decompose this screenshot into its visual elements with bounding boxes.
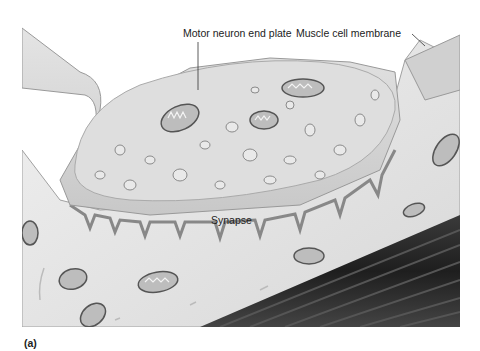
- neuromuscular-junction-illustration: [0, 0, 480, 351]
- motor-neuron-end-plate-label: Motor neuron end plate: [183, 27, 292, 39]
- synapse-label: Synapse: [211, 214, 252, 226]
- muscle-cell-membrane-label: Muscle cell membrane: [296, 27, 401, 39]
- panel-label: (a): [24, 337, 37, 349]
